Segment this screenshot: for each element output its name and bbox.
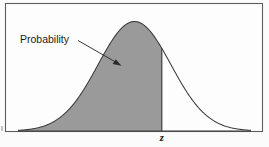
probability-annotation-label: Probability bbox=[20, 33, 70, 45]
distribution-chart: Probability z bbox=[0, 0, 269, 147]
z-axis-label: z bbox=[159, 132, 165, 143]
figure-container: Probability z bbox=[0, 0, 269, 147]
